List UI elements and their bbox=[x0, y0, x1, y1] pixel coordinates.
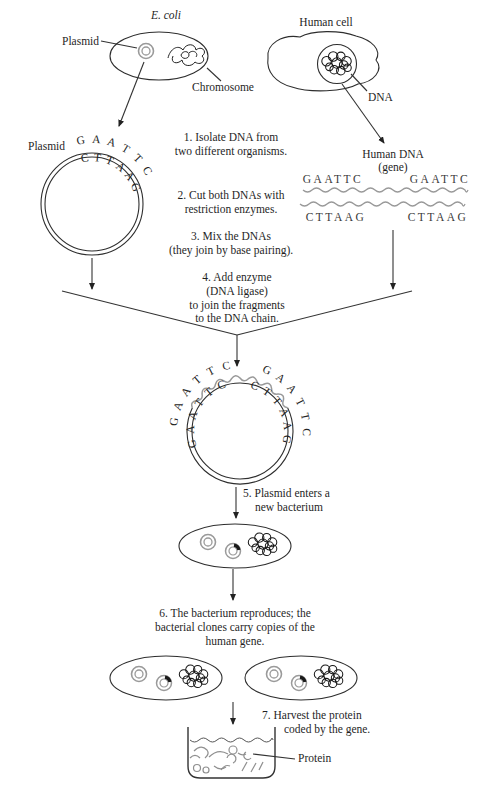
svg-text:T: T bbox=[120, 142, 132, 156]
seq-bottom-left: CTTAAG bbox=[306, 211, 367, 223]
svg-text:A: A bbox=[285, 382, 300, 397]
svg-text:C: C bbox=[221, 359, 231, 372]
bacterium-clone-right bbox=[245, 656, 357, 700]
step6-text: 6. The bacterium reproduces; the bacteri… bbox=[155, 607, 315, 648]
svg-text:A: A bbox=[184, 425, 196, 434]
recombinant-dna-diagram: E. coli Plasmid Chromosome Human cell DN… bbox=[0, 0, 489, 795]
protein-label: Protein bbox=[298, 752, 331, 764]
step7-line2: coded by the gene. bbox=[284, 723, 370, 736]
dna-strand-top bbox=[303, 188, 468, 192]
seq-top-right: GAATTC bbox=[410, 173, 470, 185]
step5-line2: new bacterium bbox=[255, 501, 323, 513]
svg-text:A: A bbox=[122, 169, 137, 183]
ecoli-label: E. coli bbox=[150, 9, 181, 21]
step1-line2: two different organisms. bbox=[175, 145, 287, 158]
human-dna-tangle bbox=[322, 52, 351, 75]
svg-text:C: C bbox=[215, 378, 227, 392]
svg-text:T: T bbox=[299, 412, 312, 421]
svg-text:A: A bbox=[171, 399, 185, 412]
svg-text:T: T bbox=[190, 373, 203, 387]
plasmid-left-label: Plasmid bbox=[28, 140, 65, 152]
svg-text:T: T bbox=[93, 151, 101, 164]
svg-text:T: T bbox=[202, 385, 215, 399]
svg-text:G: G bbox=[129, 181, 143, 193]
svg-text:G: G bbox=[261, 363, 273, 377]
step7-line1: 7. Harvest the protein bbox=[262, 709, 362, 722]
step4-text: 4. Add enzyme (DNA ligase) to join the f… bbox=[189, 271, 285, 324]
step5-text: 5. Plasmid enters a new bacterium bbox=[243, 487, 330, 513]
human-dna-subtitle: (gene) bbox=[378, 161, 408, 174]
svg-text:T: T bbox=[131, 151, 144, 164]
svg-text:A: A bbox=[178, 384, 193, 398]
chromosome-label: Chromosome bbox=[192, 81, 254, 93]
step3-line2: (they join by base pairing). bbox=[169, 244, 293, 257]
bacterium-clone-left bbox=[110, 656, 222, 700]
recombinant-outer-left-seq: GAATTC bbox=[167, 359, 231, 427]
svg-text:T: T bbox=[205, 364, 217, 378]
svg-text:C: C bbox=[141, 164, 155, 177]
svg-text:G: G bbox=[281, 434, 294, 444]
ecoli-cell bbox=[110, 32, 208, 80]
svg-text:A: A bbox=[92, 133, 102, 146]
seq-bottom-right: CTTAAG bbox=[408, 211, 469, 223]
step3-text: 3. Mix the DNAs (they join by base pairi… bbox=[169, 230, 293, 257]
step4-line3: to join the fragments bbox=[189, 299, 285, 312]
beaker-water-line bbox=[190, 738, 273, 742]
svg-text:G: G bbox=[185, 438, 199, 449]
step7-text: 7. Harvest the protein coded by the gene… bbox=[262, 709, 370, 736]
ecoli-plasmid-ring bbox=[139, 44, 154, 59]
ecoli-membrane bbox=[110, 32, 208, 80]
svg-text:T: T bbox=[192, 396, 206, 409]
step2-text: 2. Cut both DNAs with restriction enzyme… bbox=[177, 189, 284, 216]
svg-text:A: A bbox=[281, 421, 294, 431]
ecoli-chromosome-scribble bbox=[168, 45, 204, 66]
seq-top-left: GAATTC bbox=[303, 173, 363, 185]
step6-line1: 6. The bacterium reproduces; the bbox=[159, 607, 310, 620]
cut-plasmid bbox=[41, 153, 143, 255]
dna-strand-bottom bbox=[300, 202, 465, 206]
step2-line1: 2. Cut both DNAs with bbox=[177, 189, 284, 201]
svg-text:T: T bbox=[104, 154, 115, 168]
beaker bbox=[188, 727, 295, 778]
svg-text:A: A bbox=[277, 406, 292, 419]
step1-line1: 1. Isolate DNA from bbox=[184, 131, 279, 143]
recombinant-inner-circle bbox=[192, 383, 288, 479]
step5-line1: 5. Plasmid enters a bbox=[243, 487, 330, 499]
dna-label: DNA bbox=[368, 91, 394, 103]
step3-line1: 3. Mix the DNAs bbox=[191, 230, 271, 242]
human-dna-title: Human DNA bbox=[362, 148, 424, 160]
step1-text: 1. Isolate DNA from two different organi… bbox=[175, 131, 287, 158]
recombinant-outer-arc bbox=[187, 408, 293, 484]
step4-line4: to the DNA chain. bbox=[195, 312, 279, 324]
step4-line1: 4. Add enzyme bbox=[202, 271, 271, 284]
protein-leader-line bbox=[253, 754, 295, 759]
svg-text:A: A bbox=[186, 409, 200, 421]
chromosome-leader-line bbox=[207, 68, 221, 81]
diagram-page: E. coli Plasmid Chromosome Human cell DN… bbox=[0, 0, 489, 795]
svg-text:T: T bbox=[293, 396, 307, 408]
step6-line3: human gene. bbox=[206, 635, 265, 648]
step6-line2: bacterial clones carry copies of the bbox=[155, 621, 315, 634]
human-cell-label: Human cell bbox=[299, 16, 352, 28]
beaker-outline bbox=[188, 727, 275, 778]
svg-text:G: G bbox=[76, 133, 86, 146]
recombinant-inner-left-seq: CTTAAG bbox=[184, 378, 227, 450]
plasmid-top-label: Plasmid bbox=[62, 35, 99, 47]
protein-squiggles bbox=[190, 746, 263, 773]
step2-line2: restriction enzymes. bbox=[185, 203, 278, 216]
recombinant-plasmid bbox=[187, 376, 293, 484]
svg-text:C: C bbox=[301, 428, 313, 436]
svg-text:A: A bbox=[274, 370, 288, 385]
svg-text:A: A bbox=[106, 135, 118, 149]
step4-line2: (DNA ligase) bbox=[206, 285, 268, 298]
svg-text:C: C bbox=[249, 378, 260, 392]
human-cell bbox=[268, 32, 379, 91]
svg-text:G: G bbox=[167, 417, 180, 427]
human-cell-membrane bbox=[268, 32, 379, 91]
bacterium-host bbox=[179, 524, 291, 568]
